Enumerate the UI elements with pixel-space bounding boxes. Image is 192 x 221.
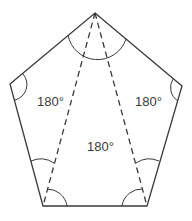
diagonal-right (95, 13, 147, 206)
angle-arc-bottom-right-outer (136, 159, 159, 163)
angle-arc-bottom-left-inner (47, 189, 67, 206)
angle-arc-top (68, 35, 126, 60)
diagonal-left (43, 13, 95, 206)
label-left-triangle: 180° (37, 94, 64, 109)
pentagon-diagram: 180° 180° 180° (0, 0, 192, 221)
pentagon-outline (10, 13, 182, 206)
angle-arc-bottom-left-outer (31, 159, 54, 163)
angle-arc-bottom-right-inner (122, 189, 143, 206)
label-right-triangle: 180° (135, 94, 162, 109)
label-center-triangle: 180° (87, 139, 114, 154)
